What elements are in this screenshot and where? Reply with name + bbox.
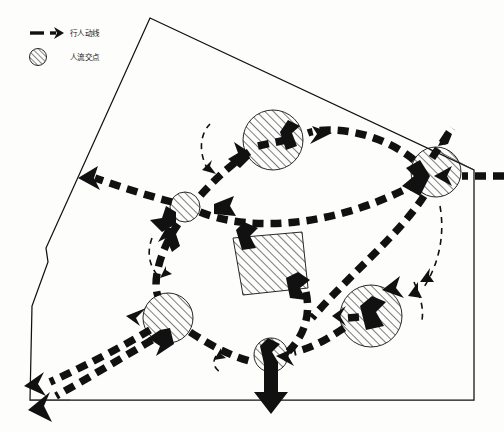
site-boundary <box>30 18 474 400</box>
flow-midleft-to-righttop <box>200 186 412 224</box>
flow-plaza-to-bottomcenter <box>288 292 308 352</box>
legend-label-intersection: 人流交点 <box>70 52 100 62</box>
legend-item-flow-line: 行人动线 <box>30 27 100 39</box>
arrowhead-into-midleft-east <box>214 196 236 216</box>
pedestrian-flow-diagram: 行人动线 人流交点 <box>0 0 504 432</box>
arrowhead-thin-midleft <box>160 266 172 278</box>
legend-item-intersection: 人流交点 <box>30 49 101 66</box>
flow-lowerleft-to-southwest-exit-b <box>56 340 152 396</box>
hatched-circle-icon <box>30 49 47 66</box>
arrowhead-bottomcenter-south-exit <box>254 362 288 414</box>
legend-label-flow-line: 行人动线 <box>70 28 100 38</box>
site-plan-svg: 行人动线 人流交点 <box>0 0 504 432</box>
flow-thin-upperleft-loop <box>201 124 210 170</box>
arrowhead-righttop-north <box>438 130 452 146</box>
flow-midleft-to-westexit <box>95 178 172 202</box>
arrowhead-southwest-exit-b <box>28 392 52 422</box>
legend: 行人动线 人流交点 <box>30 27 101 66</box>
arrowhead-thin-upperleft <box>202 160 216 174</box>
arrowhead-thin-right <box>420 268 434 282</box>
arrowhead-southwest-exit-a <box>24 372 46 396</box>
